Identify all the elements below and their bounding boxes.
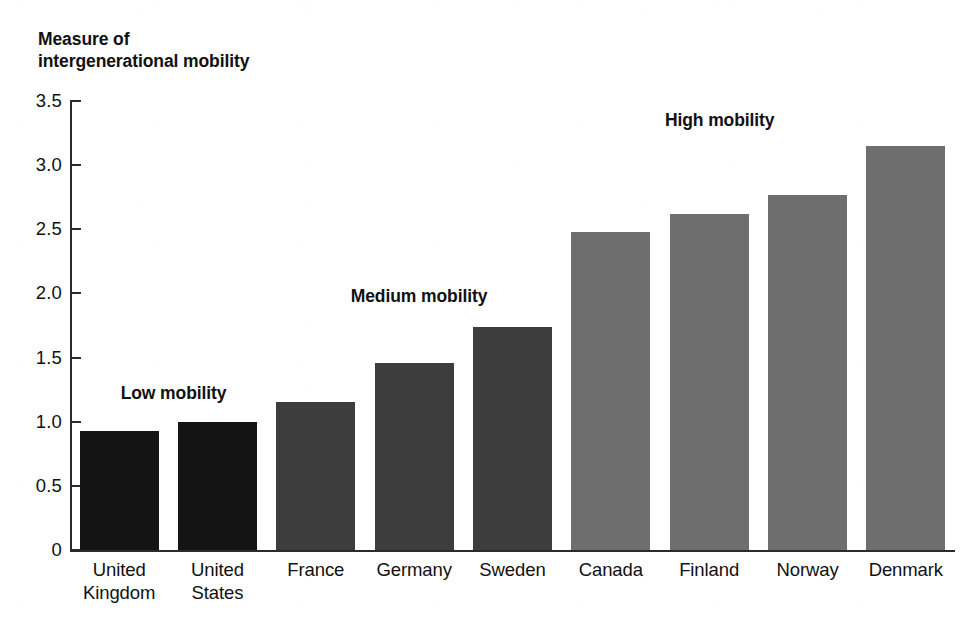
bar: [375, 363, 454, 550]
bar: [80, 431, 159, 550]
bar: [473, 327, 552, 550]
bar: [571, 232, 650, 550]
bar: [276, 402, 355, 550]
bar: [768, 195, 847, 550]
annotation-label: Low mobility: [121, 383, 227, 404]
annotation-label: High mobility: [665, 110, 775, 131]
bar-series: [0, 0, 977, 552]
bar: [670, 214, 749, 550]
bar: [866, 146, 945, 550]
bar: [178, 422, 257, 550]
annotation-label: Medium mobility: [351, 286, 488, 307]
x-axis-category-label: Denmark: [836, 558, 976, 581]
chart-figure: Measure of intergenerational mobility 00…: [0, 0, 977, 628]
